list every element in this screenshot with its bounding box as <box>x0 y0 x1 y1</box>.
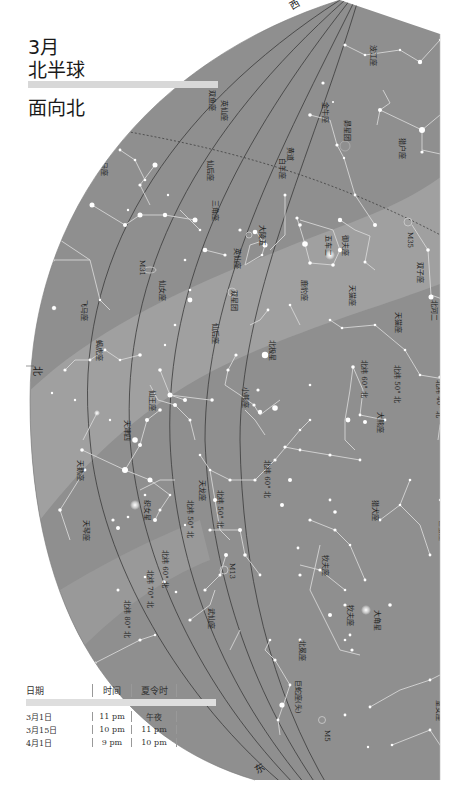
table-header: 日期 时间 夏令时 <box>26 683 216 697</box>
header-time: 时间 <box>92 684 131 697</box>
label-virgo: 室女座 <box>435 700 444 721</box>
label-m5: M5 <box>323 730 331 742</box>
label-lat-50: 北纬 50° 北 <box>393 365 402 403</box>
cell-time: 11 pm <box>92 712 131 721</box>
label-lacerta: 蝎虎座 <box>95 340 104 361</box>
label-cygnus: 天鹅座 <box>76 460 85 481</box>
label-aries: 白羊座 <box>278 158 287 179</box>
label-pisces: 双鱼座 <box>208 90 217 111</box>
label-capella: 五车二 <box>324 235 333 256</box>
observation-times-table: 日期 时间 夏令时 3月1日 11 pm 午夜 3月15日 10 pm 11 p… <box>26 683 216 749</box>
cell-date: 3月15日 <box>26 724 92 735</box>
label-taurus: 金牛座 <box>321 102 330 123</box>
label-vega: 织女星 <box>143 500 152 521</box>
label-dec-60: 北纬 60° 北 <box>263 460 272 498</box>
label-dec-50-b: 北纬 50° 北 <box>186 500 195 538</box>
table-row: 3月1日 11 pm 午夜 <box>26 710 216 723</box>
label-camelopardalis: 鹿豹座 <box>300 280 309 301</box>
label-corona-borealis: 北冕座 <box>298 640 307 661</box>
month-title: 3月 <box>28 36 85 59</box>
cell-date: 3月1日 <box>26 711 92 722</box>
label-corona: 牧夫座 <box>321 555 330 576</box>
title-block: 3月 北半球 <box>28 36 85 82</box>
table-divider <box>26 699 216 706</box>
label-draco: 天龙座 <box>198 480 207 501</box>
label-auriga: 御夫座 <box>341 235 350 256</box>
table-row: 4月1日 9 pm 10 pm <box>26 736 216 749</box>
hemisphere-title: 北半球 <box>28 59 85 82</box>
cell-date: 4月1日 <box>26 737 92 748</box>
label-lat-line-70: 北纬 70° 北 <box>146 570 155 608</box>
label-leo-minor: 小狮座 <box>445 420 454 441</box>
label-pleiades: 昴星团 <box>343 120 351 141</box>
label-serpens: 巨蛇座(头) <box>294 680 303 714</box>
label-lat-60: 北纬 60° 北 <box>360 360 369 398</box>
header-date: 日期 <box>26 684 92 697</box>
label-hercules: 武仙座 <box>207 608 216 629</box>
label-lat-line-80: 北纬 80° 北 <box>123 600 132 638</box>
label-triangulum-area: 仙后座 <box>206 160 215 181</box>
label-m13: M13 <box>228 563 236 579</box>
label-cassiopeia: 仙后座 <box>211 323 220 344</box>
label-cepheus: 仙王座 <box>148 390 157 411</box>
label-double-cluster: 双星团 <box>230 290 238 311</box>
label-dec-50-a: 北纬 50° 北 <box>216 490 225 528</box>
label-arcturus: 大角星 <box>373 610 382 631</box>
cell-time: 10 pm <box>92 725 131 734</box>
label-eridanus: 波江座 <box>369 45 378 66</box>
label-algol: 大陵五 <box>258 225 267 246</box>
label-ursa-major: 大熊座 <box>376 412 385 433</box>
label-pegasus: 飞马座 <box>80 300 89 321</box>
label-m35: M35 <box>406 232 414 248</box>
label-bootes: 牧夫座 <box>346 605 355 626</box>
label-ursa-minor: 小熊座 <box>241 387 250 408</box>
label-perseus-upper: 英仙座 <box>220 100 229 121</box>
label-lynx-2: 天猫座 <box>394 312 403 333</box>
label-perseus: 英仙座 <box>233 248 242 269</box>
label-castor: 北河二 <box>430 300 438 321</box>
label-andromeda: 仙女座 <box>158 280 167 301</box>
label-polaris: 北极星 <box>268 340 277 361</box>
cardinal-west: 西 <box>288 0 302 12</box>
label-lat-line-60: 北纬 60° 北 <box>161 550 170 588</box>
label-deneb: 天津四 <box>123 420 131 441</box>
label-pollux: 北河三 <box>445 300 453 321</box>
header-dst: 夏令时 <box>131 684 177 697</box>
cell-dst: 10 pm <box>131 738 177 747</box>
label-gemini: 双子座 <box>416 262 425 283</box>
label-orion: 猎户座 <box>398 138 407 159</box>
facing-direction: 面向北 <box>28 93 85 120</box>
label-orion-2: 猎户座 <box>440 130 449 151</box>
cell-dst: 午夜 <box>131 711 177 722</box>
label-ecliptic: 黄道 <box>286 147 295 161</box>
label-triangulum: 三角座 <box>211 200 220 221</box>
label-pegasus-top: 飞马座 <box>100 155 109 176</box>
cardinal-north: 北 <box>32 366 43 376</box>
title-divider <box>28 81 218 88</box>
label-lat-40: 北纬 40° 北 <box>435 380 444 418</box>
label-lynx: 天猫座 <box>348 285 357 306</box>
label-m31: M31 <box>138 260 146 276</box>
label-lyra: 天琴座 <box>82 520 91 541</box>
cell-time: 9 pm <box>92 738 131 747</box>
cell-dst: 11 pm <box>131 725 177 734</box>
table-row: 3月15日 10 pm 11 pm <box>26 723 216 736</box>
label-canes-venatici: 猎犬座 <box>371 500 380 521</box>
label-cancer: 巨蟹座 <box>438 520 447 541</box>
